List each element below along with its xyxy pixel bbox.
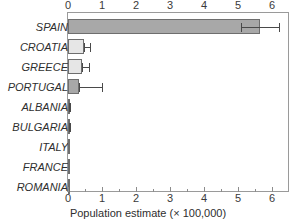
x-tick-label-top: 1 — [92, 0, 112, 11]
error-cap-spain-high — [279, 23, 280, 32]
bar-spain — [68, 19, 260, 34]
error-cap-croatia-low — [84, 43, 85, 52]
error-cap-bulgaria-high — [70, 123, 71, 132]
x-tick-label-top: 0 — [58, 0, 78, 11]
x-minor-tick-bottom — [85, 189, 86, 192]
error-cap-greece-low — [82, 63, 83, 72]
x-tick-label-top: 3 — [160, 0, 180, 11]
error-bar-portugal — [79, 87, 102, 88]
bar-france — [68, 159, 70, 174]
x-minor-tick-bottom — [153, 189, 154, 192]
x-tick-label-bottom: 4 — [194, 193, 214, 204]
x-minor-tick-bottom — [187, 189, 188, 192]
category-label-italy: ITALY — [39, 141, 68, 153]
category-label-croatia: CROATIA — [20, 41, 68, 53]
x-tick-label-bottom: 5 — [228, 193, 248, 204]
category-label-greece: GREECE — [22, 61, 68, 73]
bar-italy — [68, 139, 70, 154]
category-label-bulgaria: BULGARIA — [12, 121, 68, 133]
error-cap-portugal-low — [79, 83, 80, 92]
x-tick-label-top: 5 — [228, 0, 248, 11]
error-bar-greece — [82, 67, 89, 68]
bar-croatia — [68, 39, 84, 54]
x-tick-label-top: 6 — [262, 0, 282, 11]
x-tick-label-bottom: 0 — [58, 193, 78, 204]
category-label-spain: SPAIN — [36, 21, 68, 33]
x-minor-tick-bottom — [255, 189, 256, 192]
plot-area — [67, 12, 289, 192]
category-label-albania: ALBANIA — [22, 101, 68, 113]
x-tick-label-bottom: 6 — [262, 193, 282, 204]
x-tick-label-top: 4 — [194, 0, 214, 11]
x-axis-title: Population estimate (× 100,000) — [0, 207, 296, 219]
error-bar-spain — [241, 27, 278, 28]
error-cap-greece-high — [89, 63, 90, 72]
error-cap-portugal-high — [102, 83, 103, 92]
x-tick-label-bottom: 3 — [160, 193, 180, 204]
category-label-france: FRANCE — [23, 161, 68, 173]
x-minor-tick-bottom — [221, 189, 222, 192]
x-minor-tick-bottom — [119, 189, 120, 192]
error-cap-albania-high — [70, 103, 71, 112]
x-tick-label-bottom: 1 — [92, 193, 112, 204]
bar-greece — [68, 59, 82, 74]
bar-portugal — [68, 79, 79, 94]
error-cap-spain-low — [241, 23, 242, 32]
category-label-portugal: PORTUGAL — [8, 81, 68, 93]
bar-chart: 0 1 2 3 4 5 6 SPAIN CROATIA GREECE PORTU… — [0, 0, 296, 224]
error-cap-croatia-high — [90, 43, 91, 52]
x-tick-label-bottom: 2 — [126, 193, 146, 204]
x-tick-label-top: 2 — [126, 0, 146, 11]
category-label-romania: ROMANIA — [17, 181, 68, 193]
